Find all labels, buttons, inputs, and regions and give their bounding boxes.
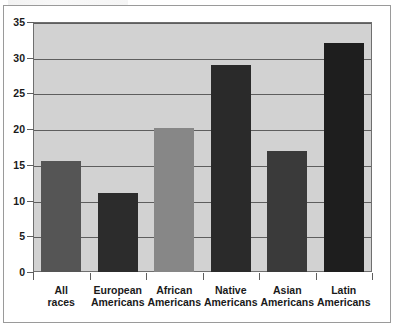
x-tick-mark (316, 273, 317, 280)
gridline (34, 202, 371, 203)
bar[interactable] (154, 128, 194, 272)
bar[interactable] (98, 193, 138, 272)
y-tick-label: 0 (0, 267, 25, 278)
x-axis-label-line: Americans (310, 296, 379, 308)
bar[interactable] (267, 151, 307, 272)
x-tick-mark (33, 273, 34, 280)
x-tick-mark (90, 273, 91, 280)
y-tick-mark (27, 236, 34, 237)
y-tick-label: 20 (0, 124, 25, 135)
bar-chart: 05101520253035 AllracesEuropeanAmericans… (0, 0, 395, 330)
gridline (34, 237, 371, 238)
y-tick-label: 25 (0, 88, 25, 99)
gridline (34, 94, 371, 95)
bar[interactable] (211, 65, 251, 272)
y-tick-mark (27, 93, 34, 94)
y-tick-label: 5 (0, 231, 25, 242)
x-tick-mark (259, 273, 260, 280)
gridline (34, 130, 371, 131)
bar[interactable] (41, 161, 81, 272)
y-tick-label: 30 (0, 53, 25, 64)
x-axis-label-line: Latin (310, 284, 379, 296)
gridline (34, 23, 371, 24)
x-tick-mark (146, 273, 147, 280)
y-tick-mark (27, 22, 34, 23)
y-tick-mark (27, 58, 34, 59)
y-tick-mark (27, 165, 34, 166)
bar[interactable] (324, 43, 364, 272)
y-tick-label: 10 (0, 196, 25, 207)
x-tick-mark (203, 273, 204, 280)
y-tick-mark (27, 201, 34, 202)
y-tick-mark (27, 129, 34, 130)
plot-area (33, 22, 372, 272)
y-tick-label: 15 (0, 160, 25, 171)
x-axis-label: LatinAmericans (310, 284, 379, 308)
y-tick-label: 35 (0, 17, 25, 28)
gridline (34, 59, 371, 60)
x-tick-mark (372, 273, 373, 280)
gridline (34, 166, 371, 167)
